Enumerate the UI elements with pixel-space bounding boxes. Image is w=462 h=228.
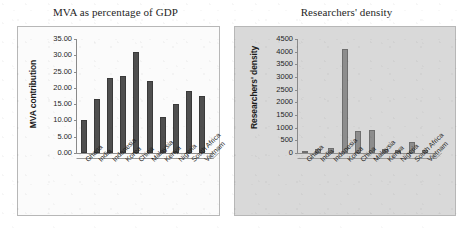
y-tick-label: 15.00 — [53, 100, 72, 108]
chart-title-mva: MVA as percentage of GDP — [0, 6, 231, 18]
y-tick-label: 500 — [280, 137, 293, 145]
bar-slot — [156, 39, 169, 153]
y-tick-label: 2000 — [276, 99, 293, 107]
bar-slot — [419, 39, 432, 153]
y-axis-tick — [295, 64, 298, 65]
y-axis-tick-labels-mva: 0.005.0010.0015.0020.0025.0030.0035.00 — [42, 39, 72, 153]
y-axis-tick — [295, 77, 298, 78]
bar-slot — [90, 39, 103, 153]
y-tick-label: 0.00 — [57, 149, 72, 157]
bar-slot — [77, 39, 90, 153]
y-axis-title-researchers: Researchers' density — [249, 51, 259, 129]
y-axis-tick — [295, 128, 298, 129]
bar-slot — [298, 39, 311, 153]
x-axis-category-labels-researchers: GhanaIndiaIndonesiaKoreaChinaMalaysiaKen… — [297, 158, 431, 208]
y-axis-tick — [295, 39, 298, 40]
y-tick-label: 5.00 — [57, 133, 72, 141]
y-tick-label: 10.00 — [53, 117, 72, 125]
y-axis-title-mva: MVA contribution — [28, 55, 38, 133]
y-tick-label: 0 — [289, 149, 293, 157]
y-tick-label: 30.00 — [53, 52, 72, 60]
bar-slot — [196, 39, 209, 153]
y-axis-tick — [74, 39, 77, 40]
y-axis-tick — [74, 88, 77, 89]
bar-slot — [325, 39, 338, 153]
bar — [120, 76, 126, 153]
x-axis-category-labels-mva: GhanaIndiaIndonesiaKoreaChinaMalaysiaKen… — [76, 158, 208, 208]
bar-slot — [365, 39, 378, 153]
chart-title-researchers: Researchers' density — [231, 6, 462, 18]
y-tick-label: 25.00 — [53, 68, 72, 76]
y-tick-label: 1000 — [276, 124, 293, 132]
bar-slot — [378, 39, 391, 153]
y-axis-tick — [295, 115, 298, 116]
plot-area-researchers — [297, 39, 432, 153]
bar — [81, 120, 87, 153]
plot-area-mva — [76, 39, 209, 153]
bar — [342, 49, 348, 153]
bar-slot — [338, 39, 351, 153]
bar — [107, 78, 113, 153]
y-axis-tick — [74, 104, 77, 105]
y-tick-label: 3500 — [276, 61, 293, 69]
panel-mva-percentage-of-gdp: MVA as percentage of GDP MVA contributio… — [0, 0, 231, 228]
y-tick-label: 2500 — [276, 86, 293, 94]
bar-slot — [405, 39, 418, 153]
bar-series-researchers — [298, 39, 432, 153]
bar-series-mva — [77, 39, 209, 153]
y-tick-label: 4500 — [276, 35, 293, 43]
plot-frame-mva: MVA contribution 0.005.0010.0015.0020.00… — [17, 26, 220, 216]
bar-slot — [143, 39, 156, 153]
y-axis-tick — [295, 102, 298, 103]
y-tick-label: 3000 — [276, 73, 293, 81]
y-axis-tick — [295, 90, 298, 91]
y-axis-tick — [74, 137, 77, 138]
y-axis-tick — [74, 120, 77, 121]
bar-slot — [103, 39, 116, 153]
bar-slot — [311, 39, 324, 153]
bar-slot — [169, 39, 182, 153]
y-tick-label: 4000 — [276, 48, 293, 56]
y-tick-label: 20.00 — [53, 84, 72, 92]
y-axis-tick — [295, 52, 298, 53]
bar-slot — [392, 39, 405, 153]
plot-frame-researchers: Researchers' density 0500100015002000250… — [234, 26, 456, 216]
panel-researchers-density: Researchers' density Researchers' densit… — [231, 0, 462, 228]
bar — [147, 81, 153, 153]
y-axis-tick — [74, 55, 77, 56]
figure-two-bar-charts: MVA as percentage of GDP MVA contributio… — [0, 0, 462, 228]
y-axis-tick-labels-researchers: 050010001500200025003000350040004500 — [267, 39, 293, 153]
y-tick-label: 1500 — [276, 111, 293, 119]
y-tick-label: 35.00 — [53, 35, 72, 43]
y-axis-tick — [74, 72, 77, 73]
bar-slot — [183, 39, 196, 153]
y-axis-tick — [295, 140, 298, 141]
bar-slot — [117, 39, 130, 153]
